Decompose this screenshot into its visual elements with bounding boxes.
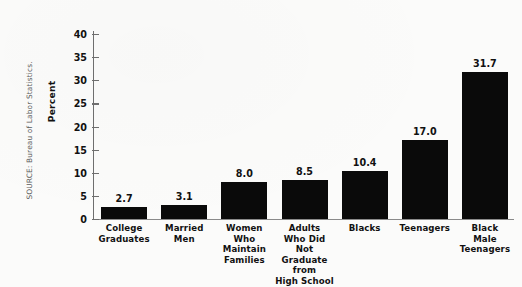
category-label-line: Families xyxy=(214,255,274,266)
tick-label: 20 xyxy=(74,121,87,132)
category-label: CollegeGraduates xyxy=(94,223,154,244)
category-label-line: Who xyxy=(214,234,274,245)
bar-group: 31.7 xyxy=(462,34,508,219)
category-label-line: Men xyxy=(154,234,214,245)
tick-mark xyxy=(92,219,99,220)
bar-group: 8.5 xyxy=(282,34,328,219)
category-label-line: Who Did Not xyxy=(274,234,334,255)
tick-label: 25 xyxy=(74,98,87,109)
y-axis-title: Percent xyxy=(46,67,57,137)
category-label-line: College xyxy=(94,223,154,234)
bar-value-label: 10.4 xyxy=(353,157,377,168)
category-label-line: Teenagers xyxy=(395,223,455,234)
category-label-line: Teenagers xyxy=(455,244,515,255)
bar-value-label: 31.7 xyxy=(473,58,497,69)
x-axis-line xyxy=(93,219,514,220)
bar xyxy=(221,182,267,219)
bar-value-label: 2.7 xyxy=(116,193,133,204)
tick-label: 30 xyxy=(74,75,87,86)
bar xyxy=(161,205,207,219)
bar-series: 2.73.18.08.510.417.031.7 xyxy=(93,34,514,219)
category-label: AdultsWho Did NotGraduate fromHigh Schoo… xyxy=(274,223,334,287)
category-label-line: Adults xyxy=(274,223,334,234)
category-label: WomenWhoMaintainFamilies xyxy=(214,223,274,265)
bar xyxy=(462,72,508,219)
bar-group: 10.4 xyxy=(342,34,388,219)
tick-label: 15 xyxy=(74,144,87,155)
category-label: Blacks xyxy=(335,223,395,234)
category-label: BlackMaleTeenagers xyxy=(455,223,515,255)
bar-value-label: 17.0 xyxy=(413,126,437,137)
category-label-line: High School xyxy=(274,276,334,287)
tick-label: 5 xyxy=(80,190,87,201)
category-label: MarriedMen xyxy=(154,223,214,244)
bar-group: 8.0 xyxy=(221,34,267,219)
category-label-line: Black xyxy=(455,223,515,234)
category-label-line: Graduates xyxy=(94,234,154,245)
bar xyxy=(101,207,147,219)
bar-group: 3.1 xyxy=(161,34,207,219)
category-label: Teenagers xyxy=(395,223,455,234)
plot-area: 0510152025303540 2.73.18.08.510.417.031.… xyxy=(93,34,514,219)
category-label-line: Blacks xyxy=(335,223,395,234)
tick-label: 0 xyxy=(80,214,87,225)
category-label-line: Male xyxy=(455,234,515,245)
bar-value-label: 8.0 xyxy=(236,168,253,179)
bar-group: 17.0 xyxy=(402,34,448,219)
bar xyxy=(342,171,388,219)
category-label-line: Maintain xyxy=(214,244,274,255)
source-note: SOURCE: Bureau of Labor Statistics. xyxy=(25,10,34,200)
bar xyxy=(402,140,448,219)
bar xyxy=(282,180,328,219)
tick-label: 40 xyxy=(74,29,87,40)
bar-value-label: 8.5 xyxy=(296,166,313,177)
tick-label: 10 xyxy=(74,167,87,178)
tick-label: 35 xyxy=(74,52,87,63)
category-label-line: Women xyxy=(214,223,274,234)
bar-value-label: 3.1 xyxy=(176,191,193,202)
category-label-line: Married xyxy=(154,223,214,234)
x-axis-category-labels: CollegeGraduatesMarriedMenWomenWhoMainta… xyxy=(93,223,514,273)
category-label-line: Graduate from xyxy=(274,255,334,276)
bar-group: 2.7 xyxy=(101,34,147,219)
